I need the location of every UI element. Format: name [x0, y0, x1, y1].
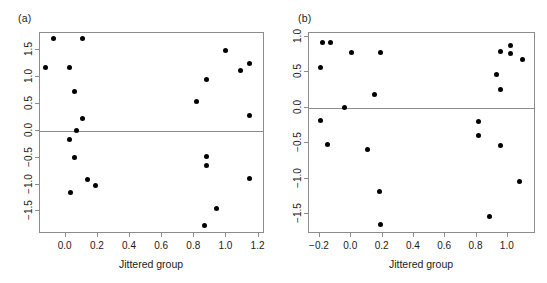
- scatter-panel-b: (b) −0.20.00.20.40.60.81.01.00.50.0−0.5−…: [274, 0, 547, 283]
- data-point: [328, 40, 333, 45]
- x-tick-label: 1.2: [251, 240, 265, 251]
- data-point: [365, 147, 370, 152]
- data-point: [85, 177, 90, 182]
- data-point: [214, 206, 219, 211]
- data-point: [508, 51, 513, 56]
- y-tick: [304, 178, 308, 179]
- y-tick: [304, 71, 308, 72]
- data-point: [498, 49, 503, 54]
- data-point: [320, 40, 325, 45]
- x-tick-label: 0.4: [406, 240, 420, 251]
- data-point: [67, 137, 72, 142]
- x-tick-label: 1.0: [500, 240, 514, 251]
- x-tick: [193, 233, 194, 237]
- data-point: [247, 113, 252, 118]
- data-point: [72, 89, 77, 94]
- x-tick: [444, 233, 445, 237]
- data-point: [68, 190, 73, 195]
- data-point: [476, 119, 481, 124]
- x-tick: [97, 233, 98, 237]
- x-tick-label: 0.8: [186, 240, 200, 251]
- x-tick-label: 0.6: [154, 240, 168, 251]
- x-tick: [65, 233, 66, 237]
- x-tick-label: 0.2: [375, 240, 389, 251]
- data-point: [372, 92, 377, 97]
- x-tick-label: 0.8: [469, 240, 483, 251]
- y-tick: [304, 36, 308, 37]
- x-tick: [476, 233, 477, 237]
- x-tick: [413, 233, 414, 237]
- data-point: [494, 72, 499, 77]
- data-point: [325, 142, 330, 147]
- x-tick: [258, 233, 259, 237]
- data-point: [72, 155, 77, 160]
- y-tick: [304, 213, 308, 214]
- data-point: [74, 128, 79, 133]
- plot-area-a: [39, 32, 264, 233]
- data-point: [508, 43, 513, 48]
- data-point: [204, 154, 209, 159]
- data-point: [247, 176, 252, 181]
- data-point: [204, 77, 209, 82]
- x-tick: [225, 233, 226, 237]
- x-tick-label: −0.2: [309, 240, 329, 251]
- data-point: [520, 57, 525, 62]
- x-tick: [382, 233, 383, 237]
- x-tick: [161, 233, 162, 237]
- data-point: [487, 214, 492, 219]
- x-axis-title-a: Jittered group: [119, 258, 183, 270]
- data-point: [223, 48, 228, 53]
- data-point: [204, 163, 209, 168]
- data-point: [476, 133, 481, 138]
- data-point: [318, 65, 323, 70]
- data-point: [498, 143, 503, 148]
- y-tick: [35, 210, 39, 211]
- data-point: [51, 36, 56, 41]
- data-point: [43, 65, 48, 70]
- data-point: [93, 183, 98, 188]
- x-tick-label: 0.4: [122, 240, 136, 251]
- x-tick-label: 0.0: [343, 240, 357, 251]
- x-tick: [350, 233, 351, 237]
- x-tick: [129, 233, 130, 237]
- data-point: [67, 65, 72, 70]
- x-tick-label: 0.2: [90, 240, 104, 251]
- data-point: [202, 223, 207, 228]
- x-tick: [319, 233, 320, 237]
- y-tick: [35, 103, 39, 104]
- figure-container: (a) 0.00.20.40.60.81.01.21.51.00.50.0−0.…: [0, 0, 547, 283]
- scatter-panel-a: (a) 0.00.20.40.60.81.01.21.51.00.50.0−0.…: [0, 0, 274, 283]
- data-point: [378, 222, 383, 227]
- data-point: [80, 36, 85, 41]
- x-tick-label: 1.0: [218, 240, 232, 251]
- data-point: [377, 189, 382, 194]
- panel-label-a: (a): [18, 12, 31, 24]
- y-tick: [35, 184, 39, 185]
- x-tick-label: 0.0: [58, 240, 72, 251]
- y-tick: [35, 76, 39, 77]
- x-tick-label: 0.6: [437, 240, 451, 251]
- data-point: [342, 105, 347, 110]
- data-point: [194, 99, 199, 104]
- panel-label-b: (b): [298, 12, 311, 24]
- data-point: [238, 68, 243, 73]
- data-point: [517, 179, 522, 184]
- data-point: [349, 50, 354, 55]
- y-tick: [35, 157, 39, 158]
- data-point: [247, 61, 252, 66]
- data-point: [378, 50, 383, 55]
- data-point: [498, 87, 503, 92]
- y-tick: [35, 130, 39, 131]
- x-tick: [507, 233, 508, 237]
- y-tick: [35, 49, 39, 50]
- x-axis-title-b: Jittered group: [389, 258, 453, 270]
- y-tick: [304, 107, 308, 108]
- data-point: [318, 118, 323, 123]
- data-point: [80, 116, 85, 121]
- y-tick: [304, 142, 308, 143]
- plot-area-b: [308, 32, 535, 233]
